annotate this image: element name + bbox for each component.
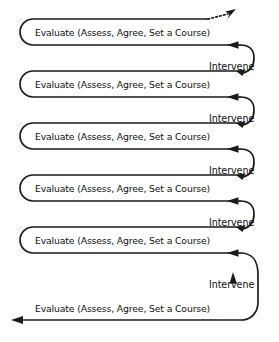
evaluate-loop-2-label: Evaluate (Assess, Agree, Set a Course): [35, 79, 210, 90]
intervene-connector-1-label: Intervene: [209, 61, 254, 72]
evaluate-baseline-label: Evaluate (Assess, Agree, Set a Course): [35, 303, 210, 314]
evaluate-loop-1-label: Evaluate (Assess, Agree, Set a Course): [35, 27, 210, 38]
evaluate-loop-4-group: Evaluate (Assess, Agree, Set a Course): [20, 175, 240, 205]
evaluate-loop-5-label: Evaluate (Assess, Agree, Set a Course): [35, 235, 210, 246]
evaluate-loop-2-arrow-left-icon: [227, 93, 239, 100]
evaluate-baseline-arrow-left-icon: [11, 316, 23, 324]
evaluate-loop-4-label: Evaluate (Assess, Agree, Set a Course): [35, 183, 210, 194]
evaluate-baseline-group: Evaluate (Assess, Agree, Set a Course): [11, 303, 243, 325]
evaluate-loop-4-arrow-left-icon: [227, 197, 239, 204]
intervene-connector-5-label: Intervene: [209, 279, 254, 290]
evaluate-loop-5-group: Evaluate (Assess, Agree, Set a Course): [20, 227, 240, 257]
evaluate-intervene-cycle-diagram: Evaluate (Assess, Agree, Set a Course) I…: [0, 0, 279, 342]
intervene-connector-2-label: Intervene: [209, 113, 254, 124]
evaluate-loop-1-arrow-left-icon: [227, 41, 239, 48]
diagram-root: Evaluate (Assess, Agree, Set a Course) I…: [0, 0, 279, 342]
continuation-dashed-segment: [208, 14, 228, 19]
intervene-connector-5-group: Intervene: [209, 253, 258, 320]
intervene-connector-4-label: Intervene: [209, 217, 254, 228]
evaluate-loop-3-group: Evaluate (Assess, Agree, Set a Course): [20, 123, 240, 153]
evaluate-loop-3-label: Evaluate (Assess, Agree, Set a Course): [35, 131, 210, 142]
intervene-connector-3-label: Intervene: [209, 165, 254, 176]
evaluate-loop-1-group: Evaluate (Assess, Agree, Set a Course): [20, 19, 240, 49]
evaluate-loop-5-arrow-left-icon: [227, 249, 239, 256]
evaluate-loop-2-group: Evaluate (Assess, Agree, Set a Course): [20, 71, 240, 101]
continuation-dashed-arrow-group: [208, 9, 236, 19]
evaluate-loop-3-arrow-left-icon: [227, 145, 239, 152]
